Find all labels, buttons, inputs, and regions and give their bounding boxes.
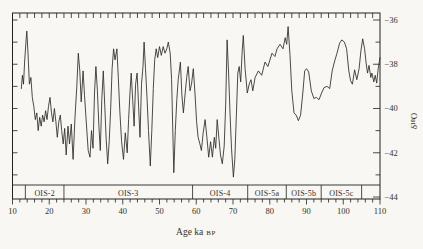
y-tick-label: −40: [385, 103, 398, 113]
bottom-axis-ticks: [13, 199, 381, 205]
x-tick-label: 80: [266, 206, 275, 216]
x-tick-label: 100: [337, 206, 350, 216]
stage-label: OIS-3: [118, 189, 139, 198]
y-axis-tick-labels: −36−38−40−42−44: [385, 15, 399, 202]
x-tick-label: 40: [119, 206, 128, 216]
y-tick-label: −38: [385, 59, 398, 69]
stage-band: OIS-2OIS-3OIS-4OIS-5aOIS-5bOIS-5c: [25, 185, 361, 199]
chart-canvas: OIS-2OIS-3OIS-4OIS-5aOIS-5bOIS-5c 102030…: [0, 0, 423, 249]
x-axis-title: Age kaBP: [176, 227, 216, 237]
oxygen-isotope-figure: OIS-2OIS-3OIS-4OIS-5aOIS-5bOIS-5c 102030…: [0, 0, 423, 249]
stage-label: OIS-5b: [291, 189, 316, 198]
stage-label: OIS-5c: [329, 189, 354, 198]
y-tick-label: −44: [385, 192, 399, 202]
x-axis-tick-labels: 102030405060708090100110: [8, 206, 386, 216]
x-tick-label: 10: [8, 206, 17, 216]
left-axis-ticks: [13, 20, 18, 175]
isotope-curve: [21, 27, 380, 178]
x-tick-label: 20: [45, 206, 54, 216]
x-tick-label: 50: [155, 206, 164, 216]
x-tick-label: 30: [82, 206, 91, 216]
y-tick-label: −36: [385, 15, 398, 25]
right-axis-ticks: [373, 20, 380, 197]
x-tick-label: 60: [192, 206, 201, 216]
stage-label: OIS-2: [34, 189, 55, 198]
x-tick-label: 110: [374, 206, 386, 216]
stage-label: OIS-4: [210, 189, 231, 198]
plot-border: [13, 13, 381, 199]
plot-frame: [13, 13, 381, 199]
y-tick-label: −42: [385, 148, 398, 158]
stage-label: OIS-5a: [255, 189, 280, 198]
x-tick-label: 70: [229, 206, 238, 216]
y-axis-title: δ¹⁸O: [409, 112, 419, 129]
top-axis-ticks: [20, 13, 373, 18]
x-tick-label: 90: [302, 206, 311, 216]
